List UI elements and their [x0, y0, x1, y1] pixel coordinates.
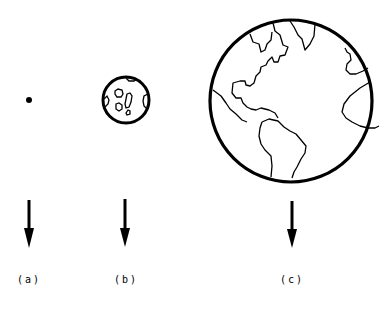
gravity-arrow-b — [120, 199, 130, 247]
earth-globe-icon — [210, 20, 379, 182]
point-mass-dot — [26, 97, 32, 103]
gravity-arrow-a — [24, 200, 34, 248]
panel-label-a: (a) — [17, 274, 41, 285]
panel-label-b: (b) — [114, 274, 138, 285]
figure-canvas — [0, 0, 390, 313]
panel-label-c: (c) — [280, 274, 304, 285]
moon-icon — [103, 77, 149, 123]
gravity-arrow-c — [287, 201, 297, 248]
